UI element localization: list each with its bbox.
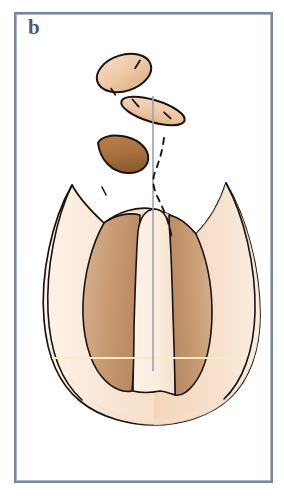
main-organ-group [43,183,260,425]
left-shoulder-notch [102,187,106,195]
detached-fragments-group [92,47,188,173]
figure-panel-b: b [0,0,284,497]
detached-oval-fragment [92,47,156,99]
detached-crescent-fragment [98,135,148,173]
panel-label-b: b [28,17,40,38]
central-pointed-lobe [133,209,175,395]
anatomical-illustration [14,12,273,483]
illustration-svg [14,12,273,483]
